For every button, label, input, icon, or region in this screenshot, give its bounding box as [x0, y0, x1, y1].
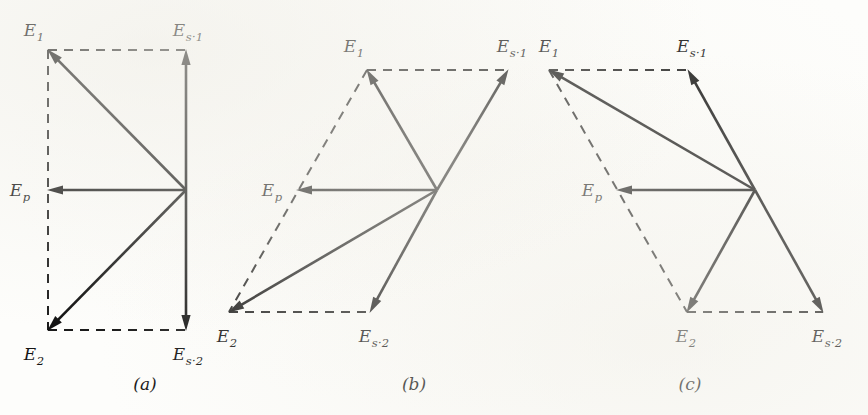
label-e1-panel-a: E1	[23, 20, 45, 44]
caption-panel-a: (a)	[133, 374, 156, 394]
vector-origin-to-E1-panel-b-arrowhead	[366, 69, 378, 85]
label-e1-panel-b: E1	[343, 36, 365, 60]
caption-panel-c: (c)	[679, 374, 702, 394]
label-es2-panel-c: Es·2	[811, 326, 843, 350]
vector-origin-to-E1-panel-b	[371, 77, 437, 190]
vector-origin-to-Es1-panel-b-arrowhead	[496, 69, 508, 85]
label-ep-panel-a: Ep	[9, 180, 31, 204]
label-es2-panel-a: Es·2	[172, 344, 204, 368]
label-es1-panel-a: Es·1	[172, 20, 204, 44]
vector-origin-to-Es1-panel-c-arrowhead	[688, 69, 700, 85]
panel-c: E1E2EpEs·1Es·2(c)	[538, 36, 843, 394]
label-es1-panel-b: Es·1	[496, 36, 528, 60]
vector-origin-to-Es2-panel-c	[755, 190, 819, 305]
label-es2-panel-b: Es·2	[358, 326, 390, 350]
vector-origin-to-E2-panel-b	[236, 190, 437, 308]
label-e2-panel-b: E2	[216, 326, 238, 350]
vector-origin-to-Es2-panel-a-arrowhead	[181, 315, 190, 331]
vector-origin-to-E2-panel-b-arrowhead	[228, 300, 244, 312]
label-e2-panel-a: E2	[23, 344, 45, 368]
label-es1-panel-c: Es·1	[676, 36, 708, 60]
panel-a: E1E2EpEs·1Es·2(a)	[9, 20, 204, 394]
vector-origin-to-E2-panel-a	[54, 190, 186, 324]
vector-origin-to-E2-panel-c	[691, 190, 755, 305]
vector-origin-to-Es1-panel-a-arrowhead	[181, 49, 190, 65]
vector-origin-to-Ep-panel-c-arrowhead	[616, 185, 632, 194]
label-ep-panel-b: Ep	[261, 180, 283, 204]
vector-origin-to-E1-panel-c-arrowhead	[548, 69, 564, 81]
vector-origin-to-Ep-panel-a-arrowhead	[47, 185, 63, 194]
vector-origin-to-Ep-panel-b-arrowhead	[296, 185, 312, 194]
phasor-diagram-canvas: E1E2EpEs·1Es·2(a)E1E2EpEs·1Es·2(b)E1E2Ep…	[0, 0, 868, 415]
vector-origin-to-Es1-panel-b	[437, 77, 504, 190]
label-e1-panel-c: E1	[538, 36, 560, 60]
panel-b: E1E2EpEs·1Es·2(b)	[216, 36, 528, 394]
label-ep-panel-c: Ep	[581, 180, 603, 204]
vector-origin-to-Es2-panel-c-arrowhead	[812, 297, 824, 313]
caption-panel-b: (b)	[402, 374, 426, 394]
vector-origin-to-Es2-panel-b-arrowhead	[370, 297, 382, 313]
vector-origin-to-E1-panel-a	[54, 56, 186, 190]
phasor-figure: E1E2EpEs·1Es·2(a)E1E2EpEs·1Es·2(b)E1E2Ep…	[0, 0, 868, 415]
vector-origin-to-E2-panel-c-arrowhead	[687, 297, 699, 313]
vector-origin-to-E1-panel-c	[556, 74, 755, 190]
label-e2-panel-c: E2	[675, 326, 697, 350]
